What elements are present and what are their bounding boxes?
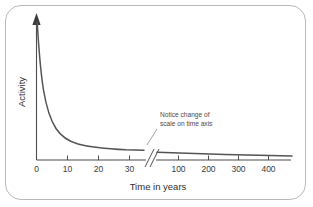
annotation-line-2: scale on time axis <box>160 120 213 127</box>
annotation-line-1: Notice change of <box>160 111 210 119</box>
axis-break-slash-1 <box>145 149 154 167</box>
annotation-leader-line <box>147 129 157 145</box>
y-axis-title: Activity <box>16 77 27 107</box>
activity-vs-time-chart: Notice change of scale on time axis 0 10… <box>0 0 313 207</box>
x-tick-label-0: 0 <box>34 164 39 174</box>
y-axis-arrow-icon <box>32 13 40 25</box>
decay-curve-right <box>157 152 292 156</box>
x-tick-label-10: 10 <box>63 164 73 174</box>
x-tick-label-30: 30 <box>125 164 135 174</box>
decay-curve-left <box>37 22 144 150</box>
figure-root: Notice change of scale on time axis 0 10… <box>0 0 313 207</box>
y-axis <box>32 13 40 160</box>
x-axis-title: Time in years <box>130 181 187 192</box>
x-tick-label-400: 400 <box>261 164 275 174</box>
x-tick-label-200: 200 <box>201 164 215 174</box>
x-axis-left-segment <box>37 156 147 161</box>
x-tick-label-20: 20 <box>94 164 104 174</box>
x-tick-label-300: 300 <box>231 164 245 174</box>
x-tick-label-100: 100 <box>171 164 185 174</box>
